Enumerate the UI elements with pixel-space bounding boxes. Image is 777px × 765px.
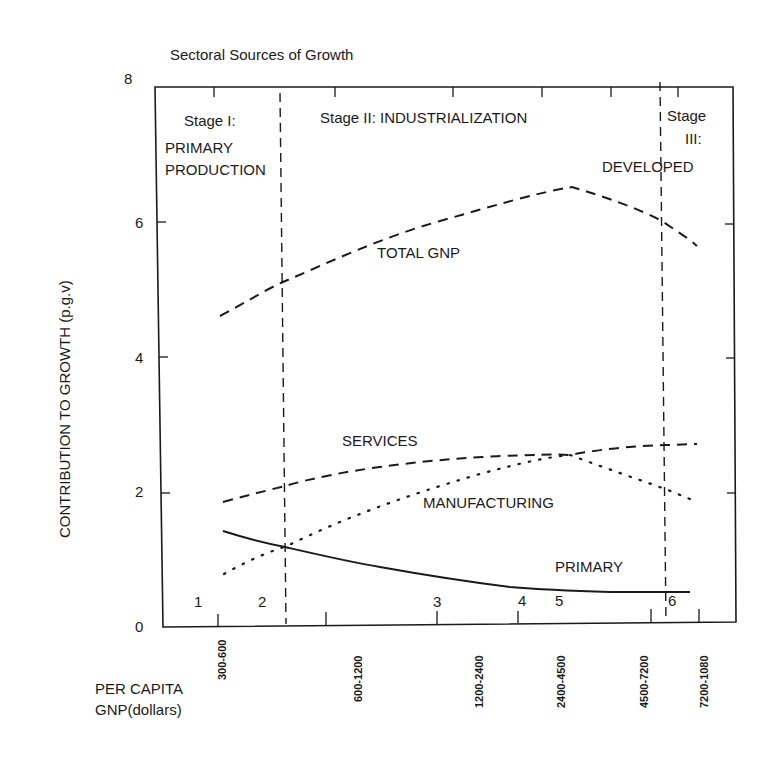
svg-text:4: 4 xyxy=(135,349,143,366)
svg-text:PER CAPITA: PER CAPITA xyxy=(95,680,183,697)
x-axis-label: PER CAPITA GNP(dollars) xyxy=(95,680,183,718)
chart-title: Sectoral Sources of Growth xyxy=(170,46,353,63)
svg-text:4500-7200: 4500-7200 xyxy=(638,655,650,708)
y-ticks xyxy=(157,222,736,493)
svg-text:7200-1080: 7200-1080 xyxy=(698,655,710,708)
svg-text:3: 3 xyxy=(433,593,441,610)
svg-text:1: 1 xyxy=(194,593,202,610)
svg-text:5: 5 xyxy=(555,592,563,609)
svg-text:600-1200: 600-1200 xyxy=(352,656,364,703)
svg-text:III:: III: xyxy=(685,130,702,147)
label-services: SERVICES xyxy=(342,432,418,449)
svg-text:1200-2400: 1200-2400 xyxy=(473,655,485,708)
chart: Sectoral Sources of Growth 0 2 4 6 8 CON… xyxy=(0,0,777,765)
series-labels: TOTAL GNP SERVICES MANUFACTURING PRIMARY xyxy=(342,244,623,575)
stage1-label: Stage I: xyxy=(184,112,236,129)
y-tick-labels: 0 2 4 6 8 xyxy=(124,70,143,635)
y-axis-label: CONTRIBUTION TO GROWTH (p.g.v) xyxy=(56,280,73,538)
svg-text:8: 8 xyxy=(124,70,132,87)
label-primary: PRIMARY xyxy=(555,558,623,575)
x-tick-labels: 300-600 600-1200 1200-2400 2400-4500 450… xyxy=(216,640,710,708)
svg-text:6: 6 xyxy=(668,592,676,609)
svg-text:300-600: 300-600 xyxy=(216,640,228,680)
svg-text:6: 6 xyxy=(135,214,143,231)
svg-text:DEVELOPED: DEVELOPED xyxy=(602,158,694,175)
period-numbers: 1 2 3 4 5 6 xyxy=(194,592,676,610)
svg-text:GNP(dollars): GNP(dollars) xyxy=(95,701,182,718)
svg-text:0: 0 xyxy=(135,618,143,635)
svg-text:PRODUCTION: PRODUCTION xyxy=(165,161,266,178)
svg-text:2: 2 xyxy=(135,483,143,500)
svg-text:4: 4 xyxy=(518,592,526,609)
svg-text:2400-4500: 2400-4500 xyxy=(555,655,567,708)
svg-text:PRIMARY: PRIMARY xyxy=(165,139,233,156)
top-ticks xyxy=(214,87,678,97)
stage3-label: Stage xyxy=(667,107,706,124)
label-total-gnp: TOTAL GNP xyxy=(377,244,460,261)
stage2-label: Stage II: INDUSTRIALIZATION xyxy=(320,109,527,126)
label-manufacturing: MANUFACTURING xyxy=(423,494,554,511)
svg-text:2: 2 xyxy=(258,593,266,610)
series-manufacturing xyxy=(224,455,697,574)
stage-labels: Stage I: PRIMARY PRODUCTION Stage II: IN… xyxy=(165,107,706,178)
